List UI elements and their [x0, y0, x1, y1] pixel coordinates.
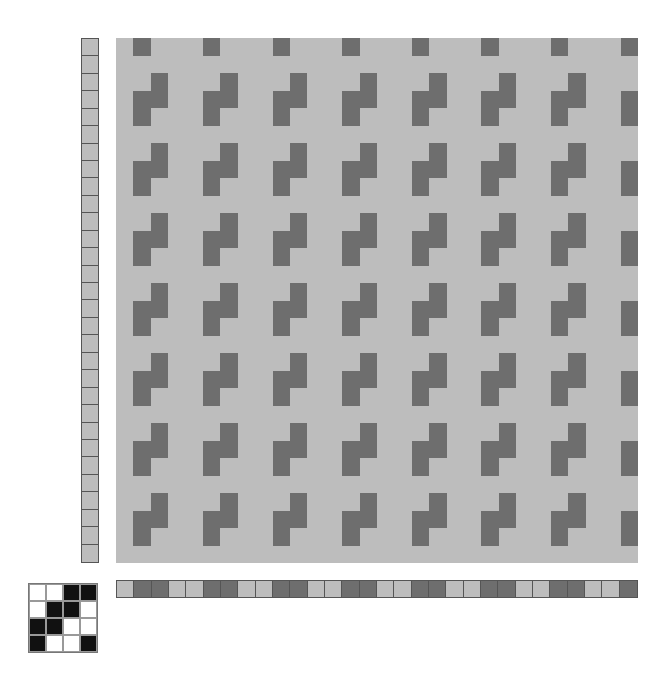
drawdown-cell[interactable]: [586, 161, 603, 179]
drawdown-cell[interactable]: [603, 336, 620, 354]
drawdown-cell[interactable]: [481, 143, 498, 161]
drawdown-cell[interactable]: [360, 161, 377, 179]
drawdown-cell[interactable]: [151, 546, 168, 564]
drawdown-cell[interactable]: [603, 528, 620, 546]
drawdown-cell[interactable]: [203, 423, 220, 441]
drawdown-cell[interactable]: [116, 108, 133, 126]
drawdown-cell[interactable]: [273, 248, 290, 266]
drawdown-cell[interactable]: [499, 353, 516, 371]
drawdown-cell[interactable]: [464, 406, 481, 424]
drawdown-cell[interactable]: [429, 73, 446, 91]
drawdown-cell[interactable]: [360, 353, 377, 371]
drawdown-cell[interactable]: [290, 38, 307, 56]
drawdown-cell[interactable]: [412, 143, 429, 161]
drawdown-cell[interactable]: [325, 441, 342, 459]
drawdown-cell[interactable]: [342, 283, 359, 301]
drawdown-cell[interactable]: [603, 248, 620, 266]
drawdown-cell[interactable]: [429, 336, 446, 354]
drawdown-cell[interactable]: [133, 458, 150, 476]
drawdown-cell[interactable]: [220, 388, 237, 406]
drawdown-cell[interactable]: [429, 371, 446, 389]
drawdown-cell[interactable]: [481, 301, 498, 319]
drawdown-cell[interactable]: [360, 301, 377, 319]
drawdown-cell[interactable]: [151, 371, 168, 389]
drawdown-cell[interactable]: [394, 231, 411, 249]
drawdown-cell[interactable]: [499, 283, 516, 301]
drawdown-cell[interactable]: [394, 108, 411, 126]
drawdown-cell[interactable]: [255, 143, 272, 161]
drawdown-cell[interactable]: [499, 546, 516, 564]
drawdown-cell[interactable]: [325, 143, 342, 161]
drawdown-cell[interactable]: [568, 38, 585, 56]
drawdown-cell[interactable]: [586, 213, 603, 231]
drawdown-cell[interactable]: [551, 388, 568, 406]
drawdown-cell[interactable]: [499, 371, 516, 389]
drawdown-cell[interactable]: [412, 528, 429, 546]
drawdown-cell[interactable]: [516, 441, 533, 459]
drawdown-cell[interactable]: [516, 283, 533, 301]
tieup-cell[interactable]: [63, 635, 80, 652]
drawdown-cell[interactable]: [429, 161, 446, 179]
drawdown-cell[interactable]: [603, 266, 620, 284]
drawdown-cell[interactable]: [464, 56, 481, 74]
drawdown-cell[interactable]: [238, 213, 255, 231]
drawdown-cell[interactable]: [412, 301, 429, 319]
drawdown-cell[interactable]: [394, 353, 411, 371]
drawdown-cell[interactable]: [151, 441, 168, 459]
drawdown-cell[interactable]: [360, 511, 377, 529]
drawdown-cell[interactable]: [307, 406, 324, 424]
drawdown-cell[interactable]: [621, 283, 638, 301]
drawdown-cell[interactable]: [516, 161, 533, 179]
drawdown-cell[interactable]: [377, 318, 394, 336]
drawdown-cell[interactable]: [273, 108, 290, 126]
drawdown-cell[interactable]: [220, 546, 237, 564]
drawdown-cell[interactable]: [412, 213, 429, 231]
drawdown-cell[interactable]: [377, 283, 394, 301]
drawdown-cell[interactable]: [290, 423, 307, 441]
drawdown-cell[interactable]: [377, 371, 394, 389]
drawdown-cell[interactable]: [603, 388, 620, 406]
drawdown-cell[interactable]: [307, 126, 324, 144]
drawdown-cell[interactable]: [325, 511, 342, 529]
drawdown-cell[interactable]: [186, 213, 203, 231]
drawdown-cell[interactable]: [499, 441, 516, 459]
drawdown-cell[interactable]: [499, 458, 516, 476]
drawdown-cell[interactable]: [551, 546, 568, 564]
drawdown-cell[interactable]: [360, 371, 377, 389]
drawdown-cell[interactable]: [273, 38, 290, 56]
drawdown-cell[interactable]: [621, 56, 638, 74]
drawdown-cell[interactable]: [186, 423, 203, 441]
drawdown-cell[interactable]: [186, 38, 203, 56]
drawdown-cell[interactable]: [186, 546, 203, 564]
drawdown-cell[interactable]: [116, 318, 133, 336]
drawdown-cell[interactable]: [516, 388, 533, 406]
drawdown-cell[interactable]: [568, 231, 585, 249]
drawdown-cell[interactable]: [603, 178, 620, 196]
drawdown-cell[interactable]: [255, 248, 272, 266]
drawdown-cell[interactable]: [464, 73, 481, 91]
drawdown-cell[interactable]: [481, 353, 498, 371]
drawdown-cell[interactable]: [586, 528, 603, 546]
drawdown-cell[interactable]: [255, 406, 272, 424]
drawdown-cell[interactable]: [255, 231, 272, 249]
drawdown-cell[interactable]: [307, 161, 324, 179]
drawdown-cell[interactable]: [534, 353, 551, 371]
drawdown-cell[interactable]: [238, 423, 255, 441]
drawdown-cell[interactable]: [394, 511, 411, 529]
drawdown-cell[interactable]: [534, 143, 551, 161]
drawdown-cell[interactable]: [360, 196, 377, 214]
drawdown-cell[interactable]: [499, 126, 516, 144]
drawdown-cell[interactable]: [186, 476, 203, 494]
drawdown-cell[interactable]: [534, 406, 551, 424]
drawdown-cell[interactable]: [394, 143, 411, 161]
drawdown-cell[interactable]: [203, 353, 220, 371]
drawdown-cell[interactable]: [307, 493, 324, 511]
drawdown-cell[interactable]: [151, 108, 168, 126]
drawdown-cell[interactable]: [273, 336, 290, 354]
drawdown-cell[interactable]: [429, 126, 446, 144]
drawdown-cell[interactable]: [290, 196, 307, 214]
drawdown-cell[interactable]: [290, 91, 307, 109]
drawdown-cell[interactable]: [534, 336, 551, 354]
drawdown-cell[interactable]: [133, 126, 150, 144]
drawdown-cell[interactable]: [481, 406, 498, 424]
